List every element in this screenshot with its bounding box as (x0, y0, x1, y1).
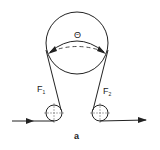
force-left-label: F1 (37, 84, 46, 95)
belt-left-strand (46, 50, 61, 110)
wrap-angle-arc (50, 41, 104, 52)
angle-label: Θ (74, 30, 81, 40)
input-arrowhead-icon (26, 118, 34, 124)
belt-right-strand (93, 50, 108, 110)
belt-friction-diagram: Θ F1 F2 a (0, 0, 160, 150)
force-right-label: F2 (103, 86, 112, 97)
dashed-contact-arc (52, 47, 102, 52)
arrowhead-right-icon (97, 46, 106, 54)
output-arrowhead-icon (138, 117, 147, 123)
caption-label: a (74, 131, 80, 141)
drum-circle (46, 12, 108, 74)
